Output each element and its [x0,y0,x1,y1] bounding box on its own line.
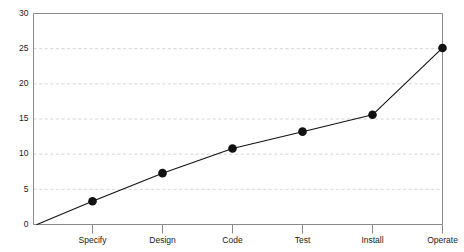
y-tick-label-10: 10 [19,148,29,158]
data-point-test [298,127,307,136]
y-tick-label-25: 25 [19,43,29,53]
x-tick-label-test: Test [295,235,311,245]
y-tick-label-5: 5 [24,184,29,194]
y-tick-label-30: 30 [19,8,29,18]
y-tick-label-15: 15 [19,113,29,123]
chart-background [0,0,464,252]
x-tick-label-install: Install [361,235,383,245]
x-tick-label-specify: Specify [79,235,108,245]
x-tick-label-code: Code [222,235,243,245]
x-tick-label-operate: Operate [427,235,458,245]
data-point-install [368,110,377,119]
chart-figure: 051015202530 SpecifyDesignCodeTestInstal… [0,0,464,252]
data-point-specify [88,197,97,206]
data-point-code [228,144,237,153]
line-chart: 051015202530 SpecifyDesignCodeTestInstal… [0,0,464,252]
x-tick-label-design: Design [149,235,176,245]
data-point-design [158,169,167,178]
y-tick-label-0: 0 [24,219,29,229]
data-point-operate [438,44,447,53]
y-tick-label-20: 20 [19,78,29,88]
